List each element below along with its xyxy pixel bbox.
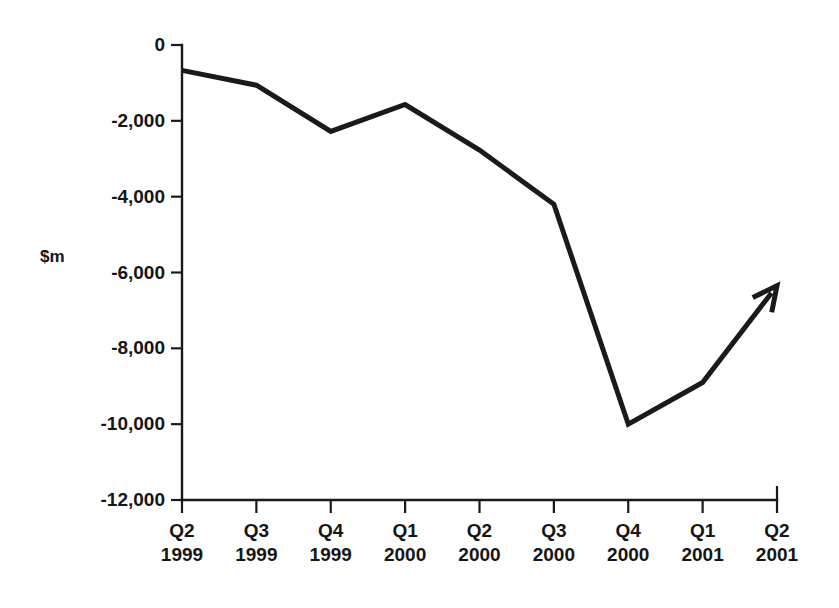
x-axis-quarter-label: Q1 xyxy=(681,519,723,543)
x-axis-tick-label-group: Q31999 xyxy=(235,519,277,568)
y-axis-tick-label: -10,000 xyxy=(101,413,165,435)
x-axis-quarter-label: Q2 xyxy=(458,519,500,543)
y-axis-tick-label: -6,000 xyxy=(111,262,165,284)
x-axis-quarter-label: Q4 xyxy=(607,519,649,543)
y-axis-tick-label: -12,000 xyxy=(101,489,165,511)
x-axis-quarter-label: Q4 xyxy=(310,519,352,543)
line-chart: 0-2,000-4,000-6,000-8,000-10,000-12,000 … xyxy=(0,0,839,608)
x-axis-tick-label-group: Q32000 xyxy=(533,519,575,568)
chart-canvas xyxy=(0,0,839,608)
y-axis-tick-label: -8,000 xyxy=(111,337,165,359)
y-axis-tick-label: 0 xyxy=(154,34,165,56)
x-axis-tick-label-group: Q21999 xyxy=(161,519,203,568)
x-axis-year-label: 1999 xyxy=(161,543,203,567)
x-axis-year-label: 2000 xyxy=(607,543,649,567)
x-axis-tick-label-group: Q22000 xyxy=(458,519,500,568)
x-axis-year-label: 2000 xyxy=(533,543,575,567)
y-axis-unit-label: $m xyxy=(40,247,65,267)
x-axis-tick-label-group: Q12000 xyxy=(384,519,426,568)
x-axis-ticks xyxy=(182,500,777,513)
x-axis-year-label: 2001 xyxy=(681,543,723,567)
x-axis-year-label: 2000 xyxy=(458,543,500,567)
gridlines xyxy=(182,45,777,500)
x-axis-quarter-label: Q2 xyxy=(756,519,798,543)
x-axis-tick-label-group: Q22001 xyxy=(756,519,798,568)
x-axis-year-label: 2000 xyxy=(384,543,426,567)
x-axis-quarter-label: Q1 xyxy=(384,519,426,543)
y-axis-tick-label: -2,000 xyxy=(111,110,165,132)
x-axis-quarter-label: Q3 xyxy=(235,519,277,543)
x-axis-tick-label-group: Q42000 xyxy=(607,519,649,568)
x-axis-quarter-label: Q3 xyxy=(533,519,575,543)
x-axis-tick-label-group: Q12001 xyxy=(681,519,723,568)
x-axis-quarter-label: Q2 xyxy=(161,519,203,543)
x-axis-year-label: 1999 xyxy=(235,543,277,567)
y-axis-tick-label: -4,000 xyxy=(111,186,165,208)
x-axis-year-label: 1999 xyxy=(310,543,352,567)
data-series-line xyxy=(182,70,772,424)
x-axis-tick-label-group: Q41999 xyxy=(310,519,352,568)
y-axis-ticks xyxy=(171,45,182,500)
x-axis-year-label: 2001 xyxy=(756,543,798,567)
